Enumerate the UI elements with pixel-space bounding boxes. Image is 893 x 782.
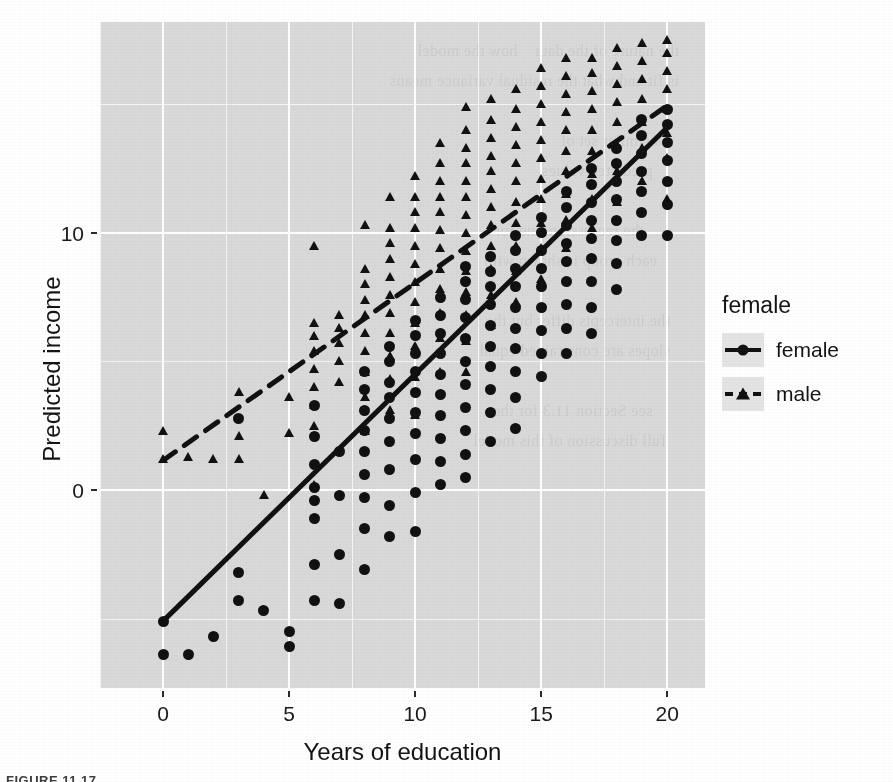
data-point-triangle-male: [536, 99, 546, 108]
data-point-triangle-male: [486, 184, 496, 193]
data-point-triangle-male: [360, 295, 370, 304]
data-point-triangle-male: [334, 377, 344, 386]
data-point-circle-female: [309, 559, 320, 570]
triangle-icon: [736, 387, 750, 399]
data-point-triangle-male: [309, 346, 319, 355]
data-point-triangle-male: [662, 35, 672, 44]
data-point-triangle-male: [461, 287, 471, 296]
data-point-triangle-male: [158, 454, 168, 463]
data-point-triangle-male: [385, 223, 395, 232]
data-point-triangle-male: [587, 146, 597, 155]
data-point-triangle-male: [486, 241, 496, 250]
data-point-circle-female: [510, 392, 521, 403]
data-point-circle-female: [309, 459, 320, 470]
data-point-triangle-male: [410, 171, 420, 180]
circle-icon: [738, 345, 749, 356]
data-point-circle-female: [636, 207, 647, 218]
data-point-triangle-male: [360, 328, 370, 337]
data-point-triangle-male: [360, 367, 370, 376]
data-point-circle-female: [435, 433, 446, 444]
data-point-circle-female: [561, 202, 572, 213]
data-point-circle-female: [485, 407, 496, 418]
data-point-triangle-male: [234, 431, 244, 440]
data-point-circle-female: [561, 256, 572, 267]
data-point-triangle-male: [561, 71, 571, 80]
data-point-circle-female: [258, 605, 269, 616]
data-point-triangle-male: [410, 259, 420, 268]
data-point-circle-female: [359, 446, 370, 457]
data-point-circle-female: [485, 384, 496, 395]
data-point-triangle-male: [461, 102, 471, 111]
data-point-triangle-male: [587, 86, 597, 95]
data-point-circle-female: [586, 302, 597, 313]
data-point-triangle-male: [561, 189, 571, 198]
data-point-triangle-male: [461, 210, 471, 219]
legend-entries: femalemale: [722, 333, 882, 411]
data-point-circle-female: [435, 479, 446, 490]
data-point-triangle-male: [385, 254, 395, 263]
data-point-circle-female: [309, 495, 320, 506]
data-point-triangle-male: [410, 341, 420, 350]
data-point-circle-female: [410, 526, 421, 537]
data-point-circle-female: [561, 323, 572, 334]
data-point-circle-female: [536, 348, 547, 359]
data-point-triangle-male: [385, 290, 395, 299]
data-point-circle-female: [359, 564, 370, 575]
data-point-circle-female: [611, 284, 622, 295]
data-point-circle-female: [334, 490, 345, 501]
data-point-circle-female: [410, 330, 421, 341]
data-point-triangle-male: [435, 176, 445, 185]
data-point-circle-female: [561, 348, 572, 359]
data-point-circle-female: [611, 258, 622, 269]
data-point-circle-female: [359, 523, 370, 534]
data-point-circle-female: [636, 166, 647, 177]
data-point-circle-female: [485, 299, 496, 310]
data-point-circle-female: [309, 595, 320, 606]
data-point-circle-female: [510, 366, 521, 377]
data-point-circle-female: [460, 276, 471, 287]
legend-entry-female[interactable]: female: [722, 333, 882, 367]
data-point-triangle-male: [536, 174, 546, 183]
data-point-circle-female: [485, 436, 496, 447]
data-point-circle-female: [359, 469, 370, 480]
data-point-triangle-male: [410, 318, 420, 327]
data-point-triangle-male: [461, 125, 471, 134]
data-point-triangle-male: [360, 392, 370, 401]
legend: female femalemale: [722, 292, 882, 421]
data-point-triangle-male: [662, 153, 672, 162]
x-tick-label: 15: [529, 703, 552, 724]
data-point-circle-female: [158, 649, 169, 660]
data-point-triangle-male: [435, 367, 445, 376]
data-point-circle-female: [636, 130, 647, 141]
data-point-triangle-male: [536, 194, 546, 203]
data-point-circle-female: [611, 235, 622, 246]
data-point-triangle-male: [612, 197, 622, 206]
data-point-circle-female: [611, 176, 622, 187]
legend-entry-male[interactable]: male: [722, 377, 882, 411]
data-point-triangle-male: [410, 223, 420, 232]
data-point-triangle-male: [486, 220, 496, 229]
data-point-triangle-male: [587, 125, 597, 134]
data-point-triangle-male: [461, 158, 471, 167]
data-point-triangle-male: [309, 400, 319, 409]
data-point-triangle-male: [511, 122, 521, 131]
data-point-circle-female: [410, 454, 421, 465]
data-point-circle-female: [561, 276, 572, 287]
data-point-circle-female: [334, 446, 345, 457]
legend-key-male: [722, 377, 764, 411]
data-point-triangle-male: [461, 176, 471, 185]
data-point-circle-female: [510, 281, 521, 292]
data-point-circle-female: [435, 348, 446, 359]
data-point-triangle-male: [536, 63, 546, 72]
data-point-triangle-male: [511, 176, 521, 185]
data-point-triangle-male: [385, 238, 395, 247]
data-point-triangle-male: [284, 428, 294, 437]
data-point-triangle-male: [461, 310, 471, 319]
legend-key-female: [722, 333, 764, 367]
data-point-circle-female: [586, 233, 597, 244]
data-point-triangle-male: [334, 338, 344, 347]
data-point-triangle-male: [309, 480, 319, 489]
data-point-triangle-male: [461, 367, 471, 376]
data-point-circle-female: [460, 402, 471, 413]
data-point-circle-female: [662, 137, 673, 148]
